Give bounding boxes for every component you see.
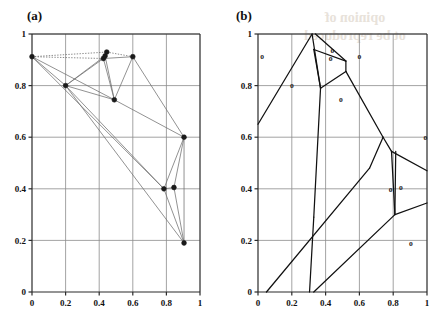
figure-canvas: opinion ofot be reproduced00.20.40.60.81… <box>0 0 447 325</box>
voronoi-edge <box>310 217 314 292</box>
voronoi-site-marker[interactable]: o <box>399 183 403 192</box>
graph-edge-solid <box>133 57 184 137</box>
y-tick-label: 0.4 <box>241 184 253 194</box>
graph-node[interactable] <box>130 54 135 59</box>
y-tick-label: 0.8 <box>241 81 253 91</box>
y-tick-label: 0.2 <box>241 236 253 246</box>
y-tick-label: 0 <box>22 287 27 297</box>
x-tick-label: 0 <box>256 298 261 308</box>
graph-edge-solid <box>103 57 132 59</box>
voronoi-site-marker[interactable]: o <box>260 52 264 61</box>
graph-node[interactable] <box>103 54 108 59</box>
delaunay-edges <box>32 52 184 243</box>
x-tick-label: 0.4 <box>94 298 106 308</box>
voronoi-edge <box>395 151 396 214</box>
panel-b: 00.20.40.60.8100.20.40.60.81(b)ooooooooo… <box>236 8 430 308</box>
graph-edge-solid <box>105 56 114 100</box>
x-tick-label: 0.6 <box>354 298 366 308</box>
graph-node[interactable] <box>172 185 177 190</box>
panel-label-b: (b) <box>236 8 252 23</box>
graph-edge-solid <box>174 137 184 187</box>
graph-edge-dotted <box>32 57 103 59</box>
voronoi-edge <box>370 137 384 168</box>
x-tick-label: 0.6 <box>127 298 139 308</box>
panel-b-axis-frame <box>258 34 427 292</box>
graph-edge-solid <box>164 189 184 243</box>
y-tick-label: 0 <box>248 287 253 297</box>
x-tick-label: 0.2 <box>60 298 72 308</box>
voronoi-site-marker[interactable]: o <box>358 52 362 61</box>
voronoi-edge <box>258 34 312 124</box>
voronoi-site-marker[interactable]: o <box>339 95 343 104</box>
graph-edge-solid <box>32 57 164 189</box>
graph-edge-solid <box>32 57 66 86</box>
voronoi-sites: oooooooooo <box>260 46 427 247</box>
voronoi-edge <box>346 71 383 137</box>
voronoi-edge <box>266 168 369 292</box>
panel-a-gridlines <box>32 34 200 292</box>
x-tick-label: 0.8 <box>388 298 400 308</box>
x-tick-label: 1 <box>198 298 203 308</box>
y-tick-label: 0.6 <box>15 132 27 142</box>
x-tick-label: 0.2 <box>286 298 298 308</box>
watermark-line-1: opinion of <box>325 10 386 25</box>
graph-node[interactable] <box>112 97 117 102</box>
graph-node[interactable] <box>63 83 68 88</box>
voronoi-edge <box>392 151 427 170</box>
graph-node[interactable] <box>182 241 187 246</box>
graph-node[interactable] <box>182 135 187 140</box>
y-tick-label: 0.6 <box>241 132 253 142</box>
graph-edge-dotted <box>32 52 107 57</box>
graph-edge-solid <box>114 100 184 137</box>
graph-node[interactable] <box>30 54 35 59</box>
voronoi-site-marker[interactable]: o <box>290 81 294 90</box>
x-tick-label: 0 <box>30 298 35 308</box>
graph-edge-dotted <box>107 52 133 57</box>
delaunay-nodes <box>30 50 187 246</box>
panel-a-axis-frame <box>32 34 200 292</box>
y-tick-label: 1 <box>22 29 27 39</box>
voronoi-edge <box>395 203 427 215</box>
graph-edge-solid <box>164 137 184 189</box>
panel-b-gridlines <box>258 34 427 292</box>
y-tick-label: 0.8 <box>15 81 27 91</box>
voronoi-cell-boundaries <box>258 34 427 292</box>
voronoi-edge <box>314 88 321 217</box>
voronoi-site-marker[interactable]: o <box>409 239 413 248</box>
x-tick-label: 1 <box>425 298 430 308</box>
voronoi-site-marker[interactable]: o <box>423 133 427 142</box>
panel-a-ticks: 00.20.40.60.8100.20.40.60.81 <box>15 29 203 308</box>
panel-b-ticks: 00.20.40.60.8100.20.40.60.81 <box>241 29 430 308</box>
panel-a: 00.20.40.60.8100.20.40.60.81(a) <box>15 8 203 308</box>
y-tick-label: 1 <box>248 29 253 39</box>
voronoi-site-marker[interactable]: o <box>329 54 333 63</box>
graph-edge-solid <box>174 188 184 243</box>
watermark-line-2: ot be reproduced <box>304 28 406 43</box>
panel-label-a: (a) <box>27 8 42 23</box>
graph-edge-solid <box>114 57 132 100</box>
x-tick-label: 0.8 <box>161 298 173 308</box>
y-tick-label: 0.4 <box>15 184 27 194</box>
voronoi-edge <box>383 137 391 151</box>
y-tick-label: 0.2 <box>15 236 27 246</box>
voronoi-edge <box>314 49 321 88</box>
x-tick-label: 0.4 <box>320 298 332 308</box>
voronoi-site-marker[interactable]: o <box>389 185 393 194</box>
graph-node[interactable] <box>161 186 166 191</box>
